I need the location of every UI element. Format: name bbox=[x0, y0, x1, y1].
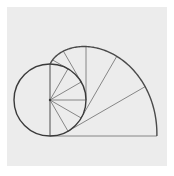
tangent-line bbox=[81, 56, 117, 118]
center-point bbox=[49, 99, 51, 101]
spoke-line bbox=[50, 69, 68, 100]
radial-spokes bbox=[50, 64, 86, 136]
involute-curve bbox=[50, 47, 157, 136]
involute-diagram bbox=[0, 0, 174, 176]
spoke-line bbox=[50, 100, 68, 131]
tangent-lines bbox=[50, 47, 157, 136]
tangent-line bbox=[68, 87, 145, 132]
